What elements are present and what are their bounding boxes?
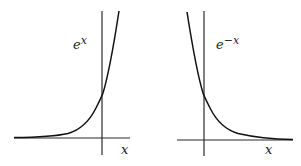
panel-exp-decay [177, 11, 293, 156]
curve-exp-decay [187, 12, 293, 140]
curve-label-exponent: −x [224, 34, 239, 47]
curve-label-exp-decay: e−x [216, 38, 239, 51]
curve-label-exp-growth: ex [73, 38, 87, 51]
x-axis-label-right: x [265, 143, 272, 156]
x-axis-label-left: x [121, 143, 128, 156]
curve-label-base: e [216, 37, 224, 52]
curve-label-base: e [73, 37, 81, 52]
diagram-canvas [0, 0, 301, 166]
panel-exp-growth [14, 11, 130, 155]
curve-exp-growth [14, 11, 119, 138]
curve-label-exponent: x [81, 34, 87, 47]
